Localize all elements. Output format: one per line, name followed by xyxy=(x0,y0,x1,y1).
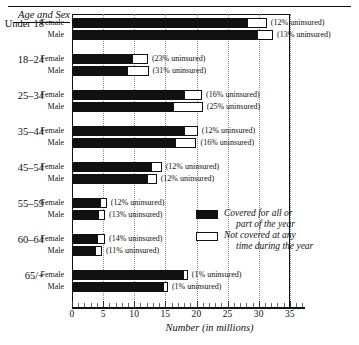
stacked-bar xyxy=(72,54,148,64)
tick-minor-23 xyxy=(215,303,216,307)
row-label-male: Male xyxy=(0,65,68,77)
bar-row: Male(13% uninsured) xyxy=(0,29,359,41)
bar-segment-covered xyxy=(72,282,163,292)
tick-minor-37 xyxy=(302,303,303,307)
row-label-male: Male xyxy=(0,245,68,257)
bar-row: Male(1% uninsured) xyxy=(0,281,359,293)
bar-annotation: (11% uninsured) xyxy=(106,246,159,256)
legend-label-covered: Covered for all or part of the year xyxy=(224,208,346,230)
tick-minor-28 xyxy=(246,303,247,307)
bar-segment-covered xyxy=(72,270,183,280)
bar-annotation: (12% uninsured) xyxy=(166,162,220,172)
tick-minor-12 xyxy=(147,303,148,307)
bar-segment-covered xyxy=(72,174,147,184)
tick-minor-11 xyxy=(140,303,141,307)
bar-row: Male(25% uninsured) xyxy=(0,101,359,113)
stacked-bar xyxy=(72,246,102,256)
bar-segment-uninsured xyxy=(132,54,148,64)
legend-uninsured-line1: Not covered at any xyxy=(224,230,296,240)
bar-annotation: (1% uninsured) xyxy=(172,282,222,292)
tick-label-5: 5 xyxy=(101,309,106,319)
bar-segment-covered xyxy=(72,162,151,172)
legend-swatch-uninsured-icon xyxy=(196,232,218,241)
tick-minor-34 xyxy=(284,303,285,307)
bar-annotation: (16% uninsured) xyxy=(206,90,260,100)
row-label-male: Male xyxy=(0,101,68,113)
bar-annotation: (13% uninsured) xyxy=(109,210,163,220)
legend-item-uninsured: Not covered at any time during the year xyxy=(196,230,346,252)
tick-minor-13 xyxy=(153,303,154,307)
tick-minor-32 xyxy=(271,303,272,307)
row-label-male: Male xyxy=(0,29,68,41)
bar-row: Female(1% uninsured) xyxy=(0,269,359,281)
tick-label-0: 0 xyxy=(70,309,75,319)
tick-minor-24 xyxy=(221,303,222,307)
bar-segment-uninsured xyxy=(183,270,188,280)
bar-annotation: (12% uninsured) xyxy=(111,198,165,208)
tick-minor-8 xyxy=(122,303,123,307)
bar-segment-uninsured xyxy=(163,282,168,292)
tick-minor-7 xyxy=(116,303,117,307)
bar-segment-covered xyxy=(72,234,97,244)
tick-minor-3 xyxy=(91,303,92,307)
bar-segment-uninsured xyxy=(147,174,157,184)
bar-segment-uninsured xyxy=(127,66,149,76)
bar-segment-uninsured xyxy=(98,210,105,220)
legend-uninsured-line2: time during the year xyxy=(224,241,346,252)
bar-segment-covered xyxy=(72,198,100,208)
group-label-6: 60–64 xyxy=(0,234,44,245)
tick-label-30: 30 xyxy=(254,309,264,319)
group-label-4: 45–54 xyxy=(0,162,44,173)
tick-minor-1 xyxy=(78,303,79,307)
group-label-0: Under 18 xyxy=(0,18,44,29)
bar-row: Female(16% uninsured) xyxy=(0,89,359,101)
stacked-bar xyxy=(72,234,105,244)
legend: Covered for all or part of the year Not … xyxy=(196,208,346,252)
stacked-bar xyxy=(72,210,105,220)
tick-20 xyxy=(197,301,198,307)
tick-label-10: 10 xyxy=(129,309,139,319)
stacked-bar xyxy=(72,30,273,40)
bar-annotation: (12% uninsured) xyxy=(202,126,256,136)
stacked-bar xyxy=(72,174,157,184)
row-label-male: Male xyxy=(0,209,68,221)
tick-minor-31 xyxy=(265,303,266,307)
bar-annotation: (23% uninsured) xyxy=(152,54,206,64)
stacked-bar xyxy=(72,282,168,292)
legend-swatch-covered-icon xyxy=(196,210,218,219)
bar-segment-covered xyxy=(72,18,247,28)
row-label-male: Male xyxy=(0,173,68,185)
tick-minor-4 xyxy=(97,303,98,307)
stacked-bar xyxy=(72,102,203,112)
tick-minor-2 xyxy=(84,303,85,307)
stacked-bar xyxy=(72,270,188,280)
bar-segment-covered xyxy=(72,30,257,40)
bar-segment-uninsured xyxy=(97,234,105,244)
bar-annotation: (12% uninsured) xyxy=(161,174,215,184)
tick-25 xyxy=(228,301,229,307)
bar-row: Male(12% uninsured) xyxy=(0,173,359,185)
tick-minor-29 xyxy=(253,303,254,307)
tick-minor-21 xyxy=(203,303,204,307)
bar-segment-uninsured xyxy=(184,90,202,100)
bar-segment-covered xyxy=(72,246,95,256)
bar-row: Female(12% uninsured) xyxy=(0,125,359,137)
tick-label-20: 20 xyxy=(192,309,202,319)
group-label-3: 35–44 xyxy=(0,126,44,137)
bar-annotation: (1% uninsured) xyxy=(192,270,242,280)
tick-minor-36 xyxy=(296,303,297,307)
tick-minor-26 xyxy=(234,303,235,307)
tick-5 xyxy=(103,301,104,307)
bar-segment-uninsured xyxy=(151,162,162,172)
header-divider xyxy=(8,6,351,7)
legend-item-covered: Covered for all or part of the year xyxy=(196,208,346,230)
bar-segment-uninsured xyxy=(184,126,198,136)
row-label-male: Male xyxy=(0,137,68,149)
bar-segment-covered xyxy=(72,54,132,64)
tick-minor-18 xyxy=(184,303,185,307)
bar-segment-covered xyxy=(72,210,98,220)
tick-minor-14 xyxy=(159,303,160,307)
tick-minor-9 xyxy=(128,303,129,307)
bar-annotation: (14% uninsured) xyxy=(109,234,163,244)
bar-segment-covered xyxy=(72,102,173,112)
